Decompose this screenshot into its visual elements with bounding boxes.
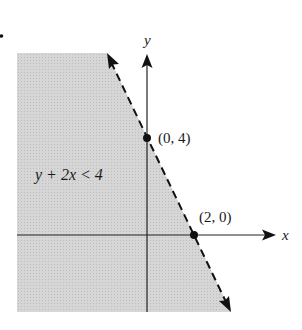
- figure-marker-dot: [0, 34, 3, 38]
- point-y-intercept: [143, 134, 151, 142]
- point-label-y-intercept: (0, 4): [158, 130, 191, 147]
- point-label-x-intercept: (2, 0): [199, 209, 232, 226]
- x-axis-label: x: [281, 227, 289, 243]
- inequality-label: y + 2x < 4: [33, 166, 103, 184]
- point-x-intercept: [190, 231, 198, 239]
- inequality-graph: x y (0, 4) (2, 0) y + 2x < 4: [0, 0, 302, 330]
- y-axis-label: y: [142, 32, 151, 48]
